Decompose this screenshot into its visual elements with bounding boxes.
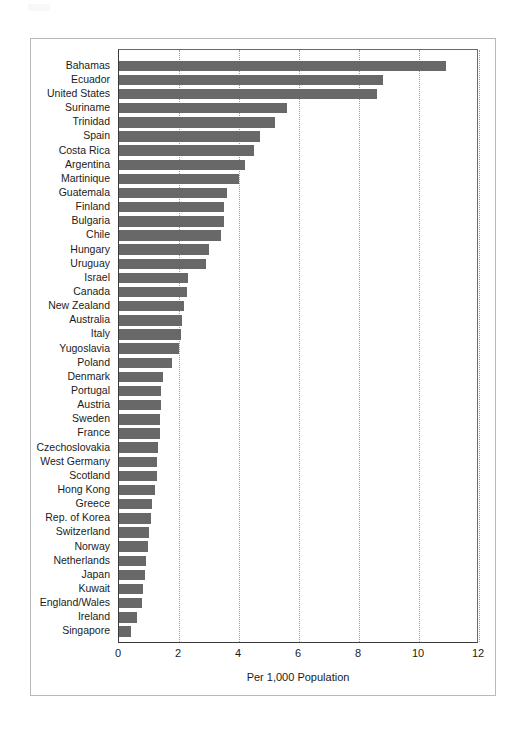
- bar-row: [119, 144, 479, 158]
- bar: [119, 230, 221, 241]
- x-tick-label: 12: [472, 647, 484, 659]
- bar-row: [119, 582, 479, 596]
- bar-row: [119, 624, 479, 638]
- bar-row: [119, 200, 479, 214]
- category-label: Spain: [83, 128, 110, 142]
- category-label: Scotland: [69, 468, 110, 482]
- bar: [119, 358, 172, 369]
- category-label: Norway: [74, 539, 110, 553]
- bar: [119, 570, 145, 581]
- value-axis-ticks: 024681012: [118, 647, 478, 667]
- bar: [119, 259, 206, 270]
- bar: [119, 273, 188, 284]
- bar: [119, 541, 148, 552]
- bar-row: [119, 327, 479, 341]
- bar-row: [119, 313, 479, 327]
- bar: [119, 485, 155, 496]
- bar-row: [119, 483, 479, 497]
- bar: [119, 499, 152, 510]
- category-label: Hungary: [70, 242, 110, 256]
- scan-artifact: [28, 4, 50, 11]
- category-label: Ireland: [78, 609, 110, 623]
- category-label: Czechoslovakia: [36, 440, 110, 454]
- category-label: Austria: [77, 397, 110, 411]
- category-label: Netherlands: [53, 553, 110, 567]
- bar: [119, 626, 131, 637]
- x-tick-label: 0: [115, 647, 121, 659]
- category-label: Denmark: [67, 369, 110, 383]
- bar-row: [119, 101, 479, 115]
- bar-row: [119, 455, 479, 469]
- category-label: Trinidad: [72, 114, 110, 128]
- bar-row: [119, 243, 479, 257]
- category-label: Japan: [81, 567, 110, 581]
- bar: [119, 216, 224, 227]
- bar-row: [119, 87, 479, 101]
- bar-row: [119, 441, 479, 455]
- bar: [119, 188, 227, 199]
- bar: [119, 145, 254, 156]
- category-label: Rep. of Korea: [45, 510, 110, 524]
- bar: [119, 527, 149, 538]
- bar-row: [119, 115, 479, 129]
- bar-chart: BahamasEcuadorUnited StatesSurinameTrini…: [31, 39, 497, 697]
- bar-row: [119, 299, 479, 313]
- category-label: Guatemala: [59, 185, 110, 199]
- bar-row: [119, 186, 479, 200]
- bar: [119, 315, 182, 326]
- bar-row: [119, 129, 479, 143]
- bar: [119, 598, 142, 609]
- category-label: New Zealand: [48, 298, 110, 312]
- category-label: Hong Kong: [57, 482, 110, 496]
- bar: [119, 117, 275, 128]
- category-label: Ecuador: [71, 72, 110, 86]
- bar-row: [119, 59, 479, 73]
- bar: [119, 386, 161, 397]
- bar-row: [119, 596, 479, 610]
- bar-row: [119, 554, 479, 568]
- category-label: France: [77, 425, 110, 439]
- bar-row: [119, 398, 479, 412]
- category-label: Canada: [73, 284, 110, 298]
- category-label: Martinique: [61, 171, 110, 185]
- category-label: Yugoslavia: [59, 341, 110, 355]
- category-label: Israel: [84, 270, 110, 284]
- bar-row: [119, 610, 479, 624]
- bar-series: [119, 50, 477, 642]
- bar-row: [119, 426, 479, 440]
- bar-row: [119, 172, 479, 186]
- bar-row: [119, 497, 479, 511]
- category-label: United States: [47, 86, 110, 100]
- bar-row: [119, 228, 479, 242]
- bar: [119, 343, 179, 354]
- x-tick-label: 8: [355, 647, 361, 659]
- bar-row: [119, 342, 479, 356]
- bar: [119, 584, 143, 595]
- category-label: Singapore: [62, 623, 110, 637]
- bar: [119, 556, 146, 567]
- figure-frame: BahamasEcuadorUnited StatesSurinameTrini…: [30, 38, 496, 696]
- category-label: Sweden: [72, 411, 110, 425]
- bar-row: [119, 73, 479, 87]
- category-label: Finland: [76, 199, 110, 213]
- bar-row: [119, 370, 479, 384]
- bar-row: [119, 525, 479, 539]
- bar: [119, 103, 287, 114]
- bar-row: [119, 214, 479, 228]
- category-label: Italy: [91, 326, 110, 340]
- category-label: Suriname: [65, 100, 110, 114]
- category-label: Costa Rica: [59, 143, 110, 157]
- category-label: Portugal: [71, 383, 110, 397]
- bar-row: [119, 384, 479, 398]
- bar: [119, 612, 137, 623]
- category-label: Australia: [69, 312, 110, 326]
- category-label: Argentina: [65, 157, 110, 171]
- x-tick-label: 10: [412, 647, 424, 659]
- bar: [119, 457, 157, 468]
- bar-row: [119, 285, 479, 299]
- category-axis-labels: BahamasEcuadorUnited StatesSurinameTrini…: [31, 49, 114, 643]
- category-label: Kuwait: [78, 581, 110, 595]
- bar: [119, 329, 181, 340]
- x-axis-title: Per 1,000 Population: [118, 671, 478, 683]
- bar-row: [119, 511, 479, 525]
